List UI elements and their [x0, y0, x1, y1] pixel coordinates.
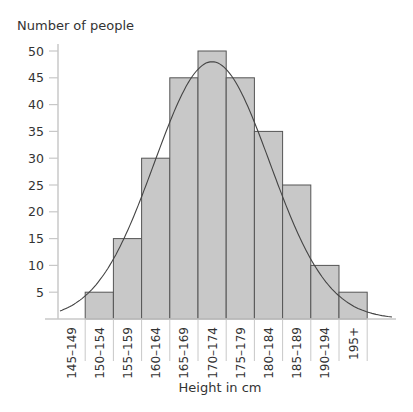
y-tick-label: 20 — [28, 204, 44, 219]
x-axis-label: Height in cm — [0, 380, 413, 395]
x-tick-label: 160–164 — [149, 327, 163, 379]
x-tick-label: 155–159 — [121, 327, 135, 379]
histogram-bar — [142, 158, 170, 319]
x-tick-label: 175–179 — [234, 327, 248, 379]
y-tick-label: 30 — [28, 151, 44, 166]
y-tick-label: 50 — [28, 44, 44, 59]
histogram-bar — [170, 78, 198, 319]
x-tick-label: 145–149 — [65, 327, 79, 379]
y-tick-label: 40 — [28, 97, 44, 112]
y-tick-label: 15 — [28, 231, 44, 246]
y-tick-label: 25 — [28, 178, 44, 193]
x-tick-label: 165–169 — [177, 327, 191, 379]
x-tick-label: 185–189 — [290, 327, 304, 379]
histogram-bar — [85, 292, 113, 319]
x-tick-label: 170–174 — [206, 327, 220, 379]
x-tick-label: 180–184 — [262, 327, 276, 379]
y-tick-label: 35 — [28, 124, 44, 139]
y-tick-label: 10 — [28, 258, 44, 273]
x-tick-label: 195+ — [347, 327, 361, 360]
y-tick-label: 45 — [28, 70, 44, 85]
y-tick-label: 5 — [36, 285, 44, 300]
x-tick-label: 150–154 — [93, 327, 107, 379]
x-tick-label: 190–194 — [318, 327, 332, 379]
histogram-bar — [198, 51, 226, 319]
histogram-bar — [226, 78, 254, 319]
histogram-chart: 5101520253035404550145–149150–154155–159… — [0, 0, 413, 412]
